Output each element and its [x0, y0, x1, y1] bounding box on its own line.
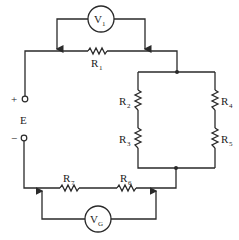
svg-text:+: +: [11, 93, 17, 105]
svg-text:G: G: [98, 220, 103, 228]
negative-terminal: [21, 135, 27, 141]
parallel-network: [135, 70, 218, 170]
resistor-r4: R 4: [221, 95, 233, 110]
resistor-r1: R 1: [91, 57, 103, 72]
svg-text:1: 1: [102, 20, 106, 28]
svg-text:V: V: [94, 13, 102, 25]
resistor-r3: R 3: [119, 133, 131, 148]
voltmeter-vg: V G: [42, 191, 156, 232]
resistor-r7: R 7: [63, 172, 75, 187]
svg-text:2: 2: [127, 102, 131, 110]
voltmeter-v1: V 1: [57, 6, 145, 49]
svg-text:5: 5: [229, 140, 233, 148]
svg-text:V: V: [90, 213, 98, 225]
svg-text:1: 1: [99, 64, 103, 72]
resistor-r6: R 6: [120, 172, 132, 187]
source-e: + E −: [11, 93, 28, 144]
circuit-diagram: R 1 V 1 R 2 R 3 R 4 R: [0, 0, 239, 240]
svg-text:7: 7: [71, 179, 75, 187]
resistor-r2: R 2: [119, 95, 131, 110]
svg-text:R: R: [91, 57, 99, 69]
svg-text:R: R: [119, 133, 127, 145]
svg-text:E: E: [20, 114, 27, 126]
svg-text:R: R: [119, 95, 127, 107]
positive-terminal: [22, 96, 28, 102]
svg-text:6: 6: [128, 179, 132, 187]
svg-text:3: 3: [127, 140, 131, 148]
svg-text:R: R: [221, 133, 229, 145]
resistor-r5: R 5: [221, 133, 233, 148]
svg-text:R: R: [221, 95, 229, 107]
bottom-wire: [24, 141, 176, 191]
svg-text:4: 4: [229, 102, 233, 110]
svg-text:R: R: [63, 172, 71, 184]
svg-text:R: R: [120, 172, 128, 184]
svg-text:−: −: [11, 132, 17, 144]
